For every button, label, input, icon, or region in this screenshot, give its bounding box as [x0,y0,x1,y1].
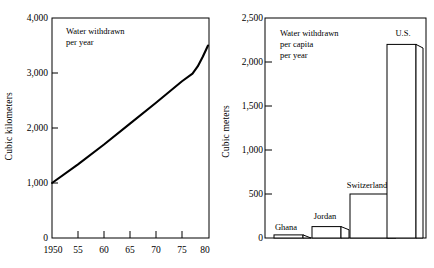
chart-panel-bar: Cubic meters 2,500 2,000 1,500 1,000 500… [217,0,434,268]
bar-ghana [274,235,311,238]
plot-frame [52,18,209,238]
figure-water-withdrawal: Cubic kilometers 4,000 3,000 2,000 1,000… [0,0,434,268]
data-line-water-withdrawn [52,46,208,184]
line-chart-svg [0,0,217,268]
bar-us [387,44,423,238]
chart-panel-line: Cubic kilometers 4,000 3,000 2,000 1,000… [0,0,217,268]
bar-chart-svg [217,0,434,268]
bar-jordan [312,227,349,238]
